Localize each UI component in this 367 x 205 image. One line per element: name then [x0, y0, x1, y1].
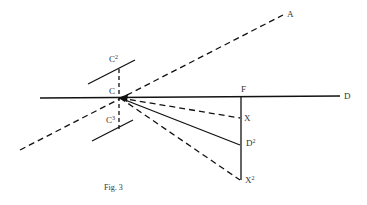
line-c-to-x2 — [120, 98, 240, 180]
label-f: F — [241, 84, 246, 94]
line-c-to-x — [120, 98, 240, 118]
label-a: A — [287, 9, 294, 19]
figure-3-diagram: A C C2 C3 F D X D2 X2 Fig. 3 — [0, 0, 367, 205]
line-c-to-d — [40, 96, 340, 98]
label-d2: D2 — [246, 138, 256, 148]
label-c3: C3 — [106, 115, 115, 125]
line-c-to-d2 — [120, 98, 240, 145]
label-c: C — [109, 86, 115, 96]
line-c3 — [92, 120, 133, 141]
label-d: D — [344, 91, 351, 101]
line-dashed-to-a — [20, 15, 283, 150]
label-x2: X2 — [245, 175, 255, 185]
label-c2: C2 — [109, 54, 118, 64]
label-x: X — [244, 113, 251, 123]
figure-caption: Fig. 3 — [104, 183, 123, 192]
